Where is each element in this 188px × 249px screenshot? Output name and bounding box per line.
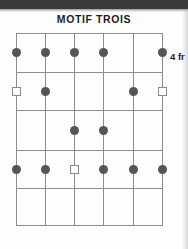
string-line-6 xyxy=(162,33,163,225)
marker-dot-string2-row2 xyxy=(41,87,50,96)
string-line-1 xyxy=(16,33,17,225)
marker-square-string6-row2 xyxy=(158,87,167,96)
marker-dot-string3-row3 xyxy=(70,126,79,135)
marker-square-string1-row2 xyxy=(12,87,21,96)
marker-dot-string2-row4 xyxy=(41,165,50,174)
marker-square-string3-row4 xyxy=(70,165,79,174)
fret-line-3 xyxy=(16,150,163,151)
page-edge-shadow xyxy=(182,9,188,249)
marker-dot-string3-row1 xyxy=(70,48,79,57)
string-line-2 xyxy=(45,33,46,225)
fret-line-0 xyxy=(16,33,163,34)
fretboard-grid xyxy=(0,0,188,249)
marker-dot-string1-row1 xyxy=(12,48,21,57)
marker-dot-string4-row1 xyxy=(99,48,108,57)
fret-line-1 xyxy=(16,72,163,73)
marker-dot-string5-row4 xyxy=(129,165,138,174)
fret-line-4 xyxy=(16,188,163,189)
marker-dot-string4-row3 xyxy=(99,126,108,135)
marker-dot-string2-row1 xyxy=(41,48,50,57)
marker-dot-string1-row4 xyxy=(12,165,21,174)
marker-dot-string6-row1 xyxy=(158,48,167,57)
marker-dot-string6-row4 xyxy=(158,165,167,174)
fret-line-2 xyxy=(16,110,163,111)
marker-dot-string4-row4 xyxy=(99,165,108,174)
chord-diagram-page: MOTIF TROIS 4 fr xyxy=(0,0,188,249)
string-line-5 xyxy=(133,33,134,225)
fret-line-5 xyxy=(16,225,163,226)
marker-dot-string5-row2 xyxy=(129,87,138,96)
